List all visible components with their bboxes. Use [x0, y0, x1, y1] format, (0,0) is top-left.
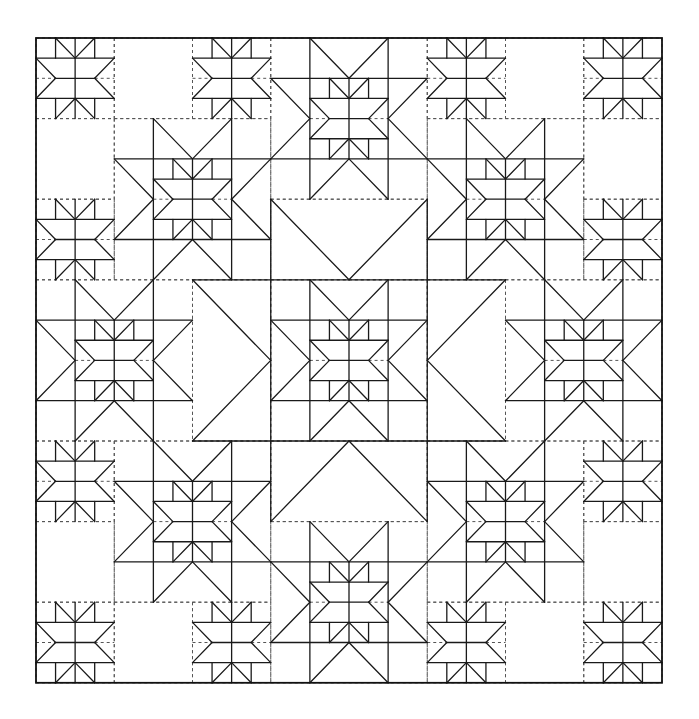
small-star-line — [369, 582, 389, 602]
small-star-line — [486, 542, 506, 562]
small-star-line — [329, 622, 349, 642]
small-star-line — [95, 219, 115, 239]
small-star-line — [642, 622, 662, 642]
large-triangle-line — [427, 280, 505, 361]
medium-star-line — [506, 360, 545, 400]
large-triangle-line — [427, 360, 505, 441]
small-star-line — [603, 602, 623, 622]
small-star-line — [232, 38, 252, 58]
medium-star-line — [153, 240, 192, 280]
small-star-line — [56, 501, 76, 521]
medium-star-line — [584, 280, 623, 320]
small-star-line — [369, 602, 389, 622]
medium-star-line — [36, 360, 75, 400]
small-star-line — [95, 240, 115, 260]
medium-star-line — [114, 522, 153, 562]
small-star-line — [36, 643, 56, 663]
small-star-line — [212, 98, 232, 118]
small-star-line — [584, 219, 604, 239]
small-star-line — [56, 602, 76, 622]
small-star-line — [36, 219, 56, 239]
medium-star-line — [310, 522, 349, 562]
medium-star-line — [193, 441, 232, 481]
small-star-line — [486, 622, 506, 642]
medium-star-line — [114, 481, 153, 521]
small-star-line — [95, 643, 115, 663]
small-star-line — [623, 38, 643, 58]
small-star-line — [95, 622, 115, 642]
small-star-line — [329, 320, 349, 340]
medium-star-line — [545, 401, 584, 441]
medium-star-line — [310, 280, 349, 320]
small-star-line — [642, 481, 662, 501]
medium-star-line — [388, 119, 427, 159]
small-star-line — [212, 38, 232, 58]
small-star-line — [212, 663, 232, 683]
medium-star-line — [271, 562, 310, 602]
small-star-line — [642, 461, 662, 481]
small-star-line — [310, 602, 330, 622]
medium-star-line — [388, 562, 427, 602]
small-star-line — [623, 98, 643, 118]
small-star-line — [506, 542, 526, 562]
medium-star-line — [271, 602, 310, 642]
small-star-line — [623, 602, 643, 622]
small-star-line — [466, 199, 486, 219]
medium-star-line — [349, 280, 388, 320]
medium-star-line — [388, 320, 427, 360]
small-star-line — [349, 381, 369, 401]
medium-star-line — [506, 441, 545, 481]
small-star-line — [349, 78, 369, 98]
medium-star-line — [349, 38, 388, 78]
small-star-line — [95, 78, 115, 98]
medium-star-line — [114, 159, 153, 199]
small-star-line — [193, 159, 213, 179]
medium-star-line — [466, 240, 505, 280]
medium-star-line — [310, 643, 349, 683]
small-star-line — [173, 481, 193, 501]
small-star-line — [310, 360, 330, 380]
small-star-line — [251, 622, 271, 642]
small-star-line — [75, 98, 95, 118]
small-star-line — [427, 58, 447, 78]
small-star-line — [584, 481, 604, 501]
medium-star-line — [349, 159, 388, 199]
medium-star-line — [114, 199, 153, 239]
small-star-line — [349, 622, 369, 642]
small-star-line — [642, 643, 662, 663]
medium-star-line — [623, 360, 662, 400]
medium-star-line — [75, 401, 114, 441]
small-star-line — [75, 663, 95, 683]
small-star-line — [623, 199, 643, 219]
small-star-line — [545, 340, 565, 360]
medium-star-line — [584, 401, 623, 441]
large-triangle-line — [349, 199, 427, 280]
small-star-line — [623, 663, 643, 683]
small-star-line — [642, 240, 662, 260]
small-star-line — [603, 38, 623, 58]
small-star-line — [584, 461, 604, 481]
small-star-line — [525, 179, 545, 199]
small-star-line — [310, 340, 330, 360]
small-star-line — [232, 602, 252, 622]
small-star-line — [603, 501, 623, 521]
medium-star-line — [545, 481, 584, 521]
small-star-line — [349, 562, 369, 582]
small-star-line — [369, 119, 389, 139]
quilt-pattern-svg — [0, 0, 699, 719]
medium-star-line — [310, 38, 349, 78]
medium-star-line — [193, 240, 232, 280]
medium-star-line — [427, 522, 466, 562]
small-star-line — [369, 340, 389, 360]
small-star-line — [232, 98, 252, 118]
medium-star-line — [153, 119, 192, 159]
small-star-line — [251, 58, 271, 78]
medium-star-line — [153, 562, 192, 602]
small-star-line — [251, 643, 271, 663]
small-star-line — [623, 501, 643, 521]
medium-star-line — [506, 562, 545, 602]
small-star-line — [506, 481, 526, 501]
small-star-line — [95, 320, 115, 340]
small-star-line — [75, 360, 95, 380]
small-star-line — [114, 381, 134, 401]
